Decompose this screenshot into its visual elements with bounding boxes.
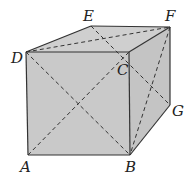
label-G: G — [172, 102, 184, 120]
label-E: E — [82, 7, 94, 25]
label-B: B — [124, 158, 136, 176]
label-D: D — [10, 49, 23, 67]
label-A: A — [18, 158, 31, 176]
cube-svg: A B C D E F G — [0, 0, 192, 180]
cube-diagram: A B C D E F G — [0, 0, 192, 180]
label-F: F — [164, 7, 176, 25]
label-C: C — [117, 61, 129, 79]
